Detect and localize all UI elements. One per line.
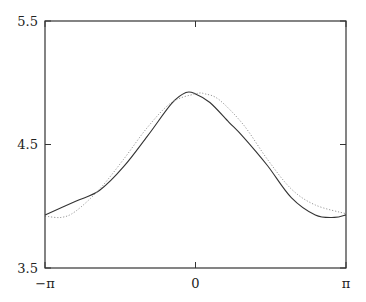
series-dotted-line (45, 93, 346, 218)
plot-frame (45, 21, 346, 268)
x-tick-label: π (342, 276, 351, 291)
x-tick-label: 0 (191, 276, 199, 291)
line-chart: −π0π3.54.55.5 (0, 0, 366, 302)
y-tick-label: 3.5 (17, 261, 38, 276)
x-tick-label: −π (35, 276, 55, 291)
tick-labels: −π0π3.54.55.5 (17, 14, 350, 292)
ticks-layer (45, 21, 346, 268)
series-layer (45, 92, 346, 218)
y-tick-label: 4.5 (17, 137, 38, 152)
y-tick-label: 5.5 (17, 14, 38, 29)
